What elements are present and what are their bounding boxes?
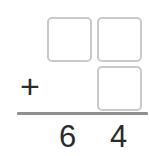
sum-digit-tens: 6 (45, 118, 90, 156)
sum-row: 6 4 (0, 118, 149, 156)
plus-operator-symbol: + (14, 68, 46, 104)
addition-worksheet: + 6 4 (0, 0, 149, 156)
input-box-addend2-ones[interactable] (97, 66, 142, 111)
horizontal-rule-divider (17, 112, 148, 115)
input-box-addend1-tens[interactable] (47, 17, 92, 62)
input-box-addend1-ones[interactable] (97, 17, 142, 62)
sum-digit-ones: 4 (96, 118, 141, 156)
